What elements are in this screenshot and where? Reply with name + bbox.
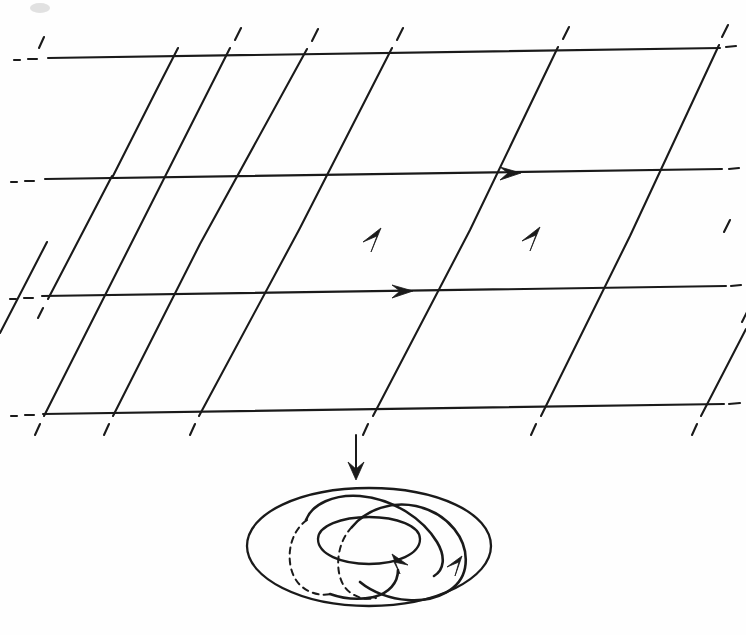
stub-h1-right [726,46,736,47]
lattice-horizontal-line-3 [42,286,726,296]
torus-hidden-meridian-left [290,520,331,595]
torus-hole-back-arc [318,517,420,539]
lattice-horizontal-line-1 [48,48,720,58]
figure-root: Universal cover lattice mapping onto a t… [0,0,746,635]
torus-curve-strand-right [352,505,466,601]
paper-smudge [30,3,50,13]
lattice-horizontal-line-2 [45,169,722,179]
torus-illustration [247,488,491,606]
stub-d2-top [312,29,318,41]
stub-d6-bottom [692,424,697,435]
lattice-diagonal-line-2 [113,49,307,416]
stub-d0-top [235,28,241,40]
stub-d5-top [722,25,728,37]
horizontal-arrow-head-1 [500,167,521,180]
lattice-diagonal-stubs [35,25,746,435]
diagonal-arrow-head-2 [522,227,540,251]
torus-hole-front-arc [318,539,420,564]
lattice-diagonal-line-0 [44,48,230,416]
lattice-horizontal-line-4 [43,404,724,414]
figure-canvas [0,0,746,635]
stub-d3-bottom [190,424,195,435]
stub-d3-top [397,28,403,40]
lattice-diagonal-line-3 [199,48,392,416]
lattice-diagonal-line-1 [48,48,178,299]
quotient-map-arrow [348,435,364,480]
stub-dA-top [39,37,44,48]
stub-d6-top [742,312,746,322]
horizontal-direction-arrows [392,167,521,298]
lattice-horizontal-lines [42,48,726,414]
stub-d0-bottom [35,424,40,435]
stub-dA-bottom [38,308,43,318]
stub-d6-top-2 [724,220,730,232]
stub-d2-bottom [104,424,109,435]
torus-curve-strand-lower [330,594,374,599]
diagonal-arrow-head-1 [363,228,381,252]
stub-d4-bottom [363,424,368,435]
stub-h4-right [729,403,740,404]
lattice-diagonal-line-5 [541,45,719,416]
torus-curve-arrow-1 [447,556,462,576]
diagonal-direction-arrows [363,227,540,252]
lattice-diagonal-line-7 [0,242,47,333]
stub-d4-top [563,27,569,39]
lattice-diagonal-line-4 [373,47,558,416]
stub-d5-bottom [531,424,536,435]
stub-h2-right [729,168,739,169]
lattice-diagonal-lines [0,45,746,416]
stub-h3-right [731,285,741,286]
